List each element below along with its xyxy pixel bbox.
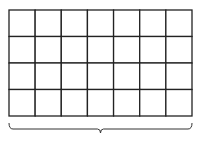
grid-cell (9, 63, 35, 90)
grid-cell (114, 10, 140, 37)
grid-cell (140, 90, 166, 117)
grid-cell (140, 37, 166, 64)
grid-diagram (0, 0, 198, 141)
grid-cell (166, 10, 192, 37)
grid-cell (140, 10, 166, 37)
grid-cell (9, 10, 35, 37)
grid-cell (9, 90, 35, 117)
grid-cell (61, 90, 87, 117)
grid-cell (35, 90, 61, 117)
grid-cell (166, 63, 192, 90)
grid-cell (87, 10, 113, 37)
grid-cell (9, 37, 35, 64)
grid-cell (114, 63, 140, 90)
grid-7x4 (9, 10, 192, 116)
grid-cell (87, 90, 113, 117)
grid-cell (61, 63, 87, 90)
grid-cell (87, 63, 113, 90)
grid-cell (61, 37, 87, 64)
grid-cell (114, 90, 140, 117)
grid-cell (61, 10, 87, 37)
grid-cell (35, 63, 61, 90)
horizontal-brace (9, 123, 192, 133)
grid-cell (114, 37, 140, 64)
grid-cell (166, 90, 192, 117)
grid-cell (166, 37, 192, 64)
grid-cell (87, 37, 113, 64)
grid-cell (35, 10, 61, 37)
grid-cell (140, 63, 166, 90)
grid-cell (35, 37, 61, 64)
